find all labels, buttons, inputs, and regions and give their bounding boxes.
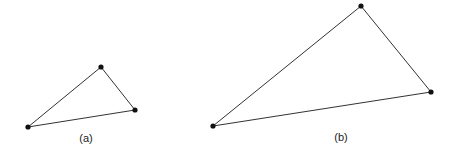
vertex-dot — [210, 123, 215, 128]
caption-b: (b) — [334, 131, 347, 143]
vertex-dot — [358, 3, 363, 8]
vertex-dot — [98, 64, 103, 69]
figure-canvas: (a) (b) — [0, 0, 455, 153]
triangle-a — [25, 64, 137, 129]
vertex-dot — [25, 124, 30, 129]
vertex-dot — [428, 89, 433, 94]
caption-a: (a) — [79, 132, 92, 144]
triangle-b — [210, 3, 433, 128]
vertex-dot — [132, 107, 137, 112]
triangles-svg — [0, 0, 455, 153]
